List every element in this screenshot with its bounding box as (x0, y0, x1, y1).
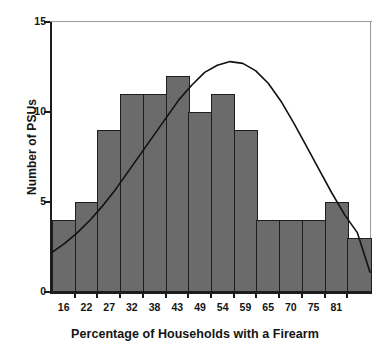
x-tick-mark (301, 292, 303, 298)
histogram-bar (120, 94, 144, 292)
histogram-bar (166, 76, 190, 292)
histogram-bar (302, 220, 326, 292)
x-tick-label: 70 (285, 301, 297, 313)
x-tick-mark (74, 292, 76, 298)
histogram-bar (234, 130, 258, 292)
histogram-bar (256, 220, 280, 292)
plot-area: 051015 16222732384349545965707581 (52, 22, 370, 292)
x-axis-title: Percentage of Households with a Firearm (0, 327, 390, 341)
x-tick-label: 75 (308, 301, 320, 313)
x-tick-mark (142, 292, 144, 298)
histogram-bar (279, 220, 303, 292)
x-tick-label: 38 (149, 301, 161, 313)
y-tick-label: 15 (24, 15, 46, 27)
x-tick-mark (255, 292, 257, 298)
histogram-figure: Number of PSUs 051015 162227323843495459… (0, 0, 390, 353)
y-tick-label: 5 (24, 195, 46, 207)
x-tick-mark (210, 292, 212, 298)
histogram-bar (211, 94, 235, 292)
histogram-bar (347, 238, 371, 292)
x-tick-mark (346, 292, 348, 298)
x-tick-mark (324, 292, 326, 298)
x-tick-mark (165, 292, 167, 298)
x-tick-label: 32 (126, 301, 138, 313)
histogram-bar (75, 202, 99, 292)
x-tick-mark (233, 292, 235, 298)
histogram-bar (52, 220, 76, 292)
x-tick-label: 16 (58, 301, 70, 313)
x-tick-label: 81 (330, 301, 342, 313)
y-tick-label: 0 (24, 285, 46, 297)
x-tick-mark (96, 292, 98, 298)
x-tick-label: 43 (171, 301, 183, 313)
x-tick-label: 59 (240, 301, 252, 313)
histogram-bar (188, 112, 212, 292)
x-tick-mark (187, 292, 189, 298)
x-tick-label: 49 (194, 301, 206, 313)
histogram-bar (143, 94, 167, 292)
x-tick-label: 65 (262, 301, 274, 313)
plot-frame-top (50, 21, 372, 22)
histogram-bar (325, 202, 349, 292)
histogram-bar (97, 130, 121, 292)
x-tick-mark (119, 292, 121, 298)
x-tick-mark (278, 292, 280, 298)
x-tick-label: 27 (103, 301, 115, 313)
x-tick-label: 22 (81, 301, 93, 313)
y-tick-label: 10 (24, 105, 46, 117)
x-tick-label: 54 (217, 301, 229, 313)
y-axis-title: Number of PSUs (25, 57, 39, 237)
